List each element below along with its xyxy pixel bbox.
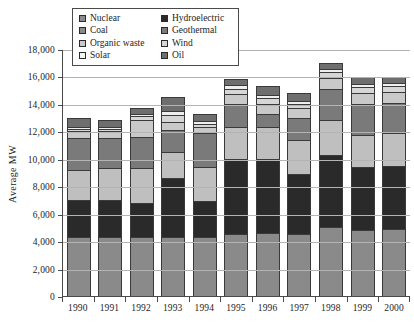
legend-label: Coal <box>90 26 108 36</box>
legend-item-coal[interactable]: Coal <box>79 25 161 38</box>
bar-segment-hydroelectric[interactable] <box>319 155 343 228</box>
bar-column[interactable] <box>224 50 248 296</box>
x-tick <box>94 297 95 302</box>
bar-column[interactable] <box>193 50 217 296</box>
legend-swatch-icon <box>161 40 168 47</box>
bar-segment-hydroelectric[interactable] <box>287 174 311 234</box>
bar-column[interactable] <box>287 50 311 296</box>
bar-segment-geothermal[interactable] <box>382 103 406 133</box>
bar-segment-nuclear[interactable] <box>98 237 122 296</box>
y-tick <box>58 270 63 271</box>
legend-item-hydroelectric[interactable]: Hydroelectric <box>161 12 243 25</box>
bar-segment-nuclear[interactable] <box>67 237 91 296</box>
bar-segment-coal[interactable] <box>161 152 185 178</box>
bar-segment-coal[interactable] <box>98 168 122 200</box>
gridline <box>63 187 410 188</box>
bar-segment-organic-waste[interactable] <box>319 78 343 89</box>
bar-segment-geothermal[interactable] <box>67 138 91 170</box>
y-axis-title-wrap: Average MW <box>4 50 20 297</box>
y-tick-label: 12,000 <box>28 127 55 137</box>
bar-column[interactable] <box>256 50 280 296</box>
bar-segment-nuclear[interactable] <box>224 234 248 296</box>
bar-segment-hydroelectric[interactable] <box>256 159 280 233</box>
y-tick-label: 18,000 <box>28 45 55 55</box>
bar-segment-hydroelectric[interactable] <box>193 201 217 237</box>
x-tick <box>189 297 190 302</box>
bar-segment-geothermal[interactable] <box>224 104 248 127</box>
bar-segment-nuclear[interactable] <box>287 234 311 296</box>
bar-column[interactable] <box>382 50 406 296</box>
bar-segment-organic-waste[interactable] <box>130 120 154 136</box>
bar-segment-oil[interactable] <box>193 114 217 122</box>
bar-segment-nuclear[interactable] <box>319 227 343 296</box>
y-tick-label: 14,000 <box>28 100 55 110</box>
legend-item-organic-waste[interactable]: Organic waste <box>79 37 161 50</box>
legend-swatch-icon <box>161 15 168 22</box>
legend-item-wind[interactable]: Wind <box>161 37 243 50</box>
bar-segment-oil[interactable] <box>287 93 311 101</box>
bar-segment-organic-waste[interactable] <box>161 122 185 130</box>
y-tick-label: 10,000 <box>28 155 55 165</box>
bar-segment-organic-waste[interactable] <box>287 108 311 118</box>
bar-column[interactable] <box>319 50 343 296</box>
bar-segment-coal[interactable] <box>67 170 91 200</box>
bar-segment-organic-waste[interactable] <box>224 94 248 104</box>
bar-segment-hydroelectric[interactable] <box>130 203 154 237</box>
bar-segment-coal[interactable] <box>287 140 311 174</box>
bar-segment-geothermal[interactable] <box>287 118 311 140</box>
legend-item-oil[interactable]: Oil <box>161 50 243 63</box>
bar-column[interactable] <box>351 50 375 296</box>
x-axis-labels: 1990199119921993199419951996199719981999… <box>62 303 410 321</box>
bar-segment-geothermal[interactable] <box>98 138 122 168</box>
bar-segment-coal[interactable] <box>351 135 375 167</box>
bar-column[interactable] <box>67 50 91 296</box>
bar-segment-nuclear[interactable] <box>382 229 406 296</box>
y-axis-title: Average MW <box>7 145 18 203</box>
bar-segment-nuclear[interactable] <box>193 237 217 296</box>
legend-label: Hydroelectric <box>172 14 224 24</box>
legend-swatch-icon <box>79 52 86 59</box>
bar-segment-organic-waste[interactable] <box>351 93 375 104</box>
bar-segment-coal[interactable] <box>193 167 217 201</box>
y-tick-label: 6,000 <box>33 210 55 220</box>
y-tick-label: 8,000 <box>33 182 55 192</box>
x-tick-label: 1990 <box>66 303 90 321</box>
bar-segment-geothermal[interactable] <box>256 114 280 128</box>
bar-segment-coal[interactable] <box>130 168 154 202</box>
bar-segment-nuclear[interactable] <box>130 237 154 296</box>
y-tick-label: 0 <box>50 292 55 302</box>
bar-segment-oil[interactable] <box>256 86 280 95</box>
x-tick-label: 1998 <box>319 303 343 321</box>
legend-item-nuclear[interactable]: Nuclear <box>79 12 161 25</box>
legend-item-geothermal[interactable]: Geothermal <box>161 25 243 38</box>
bar-segment-geothermal[interactable] <box>351 104 375 136</box>
x-tick <box>347 297 348 302</box>
y-tick-label: 2,000 <box>33 265 55 275</box>
bar-segment-oil[interactable] <box>67 118 91 127</box>
legend-label: Oil <box>172 51 184 61</box>
bar-segment-hydroelectric[interactable] <box>351 167 375 230</box>
gridline <box>63 77 410 78</box>
bar-segment-nuclear[interactable] <box>351 230 375 296</box>
bar-segment-nuclear[interactable] <box>161 237 185 296</box>
bar-column[interactable] <box>98 50 122 296</box>
x-tick <box>283 297 284 302</box>
gridline <box>63 105 410 106</box>
bar-segment-hydroelectric[interactable] <box>98 200 122 237</box>
bar-segment-geothermal[interactable] <box>193 133 217 167</box>
legend-swatch-icon <box>79 15 86 22</box>
bar-column[interactable] <box>161 50 185 296</box>
y-tick <box>58 242 63 243</box>
bar-column[interactable] <box>130 50 154 296</box>
bar-segment-hydroelectric[interactable] <box>224 159 248 234</box>
bar-segment-wind[interactable] <box>161 115 185 122</box>
bar-segment-coal[interactable] <box>319 120 343 154</box>
bar-segment-hydroelectric[interactable] <box>67 200 91 237</box>
y-tick-label: 4,000 <box>33 237 55 247</box>
bar-segment-hydroelectric[interactable] <box>382 166 406 229</box>
bar-segment-organic-waste[interactable] <box>382 92 406 103</box>
legend-swatch-icon <box>161 52 168 59</box>
bar-segment-geothermal[interactable] <box>130 137 154 169</box>
y-tick <box>58 187 63 188</box>
legend-item-solar[interactable]: Solar <box>79 50 161 63</box>
